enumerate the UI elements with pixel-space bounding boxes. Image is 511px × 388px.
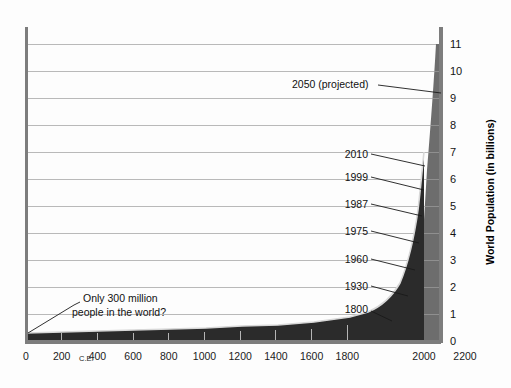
x-tick-label-0: 0 xyxy=(23,350,29,362)
y-tick-label-10: 10 xyxy=(450,65,462,77)
x-tick-label-600: 600 xyxy=(124,350,142,362)
y-tick-label-11: 11 xyxy=(450,38,461,50)
y-tick-label-6: 6 xyxy=(450,173,456,185)
annotation-1800: 1800 xyxy=(345,303,369,315)
x-tick-labels: 0 200 C.E. 400 600 800 1000 1200 1400 16… xyxy=(23,350,477,363)
y-tick-label-7: 7 xyxy=(450,146,456,158)
y-tick-label-3: 3 xyxy=(450,254,456,266)
y-tick-label-4: 4 xyxy=(450,227,456,239)
world-population-chart: 2050 (projected) 2010 1999 1987 1975 196… xyxy=(0,0,511,388)
x-tick-label-1400: 1400 xyxy=(264,350,288,362)
y-axis-title: World Population (in billions) xyxy=(484,119,496,265)
annotation-300-million-line2: people in the world? xyxy=(72,306,166,318)
y-tick-label-1: 1 xyxy=(450,308,456,320)
y-tick-label-5: 5 xyxy=(450,200,456,212)
y-tick-labels: 0 1 2 3 4 5 6 7 8 9 10 11 xyxy=(450,38,462,347)
y-tick-label-8: 8 xyxy=(450,119,456,131)
y-tick-label-9: 9 xyxy=(450,92,456,104)
x-tick-label-2000: 2000 xyxy=(412,350,436,362)
chart-canvas: 2050 (projected) 2010 1999 1987 1975 196… xyxy=(0,0,511,388)
annotation-1999: 1999 xyxy=(345,171,369,183)
annotation-1960: 1960 xyxy=(345,253,369,265)
x-tick-label-800: 800 xyxy=(160,350,178,362)
x-tick-label-400: 400 xyxy=(89,350,107,362)
x-tick-label-200: 200 xyxy=(53,350,71,362)
y-tick-label-2: 2 xyxy=(450,281,456,293)
annotation-2010: 2010 xyxy=(345,148,369,160)
annotation-1975: 1975 xyxy=(345,225,369,237)
x-tick-label-2200: 2200 xyxy=(453,350,477,362)
annotation-300-million-line1: Only 300 million xyxy=(83,292,158,304)
annotation-1987: 1987 xyxy=(345,198,369,210)
x-tick-label-1000: 1000 xyxy=(193,350,217,362)
y-tick-label-0: 0 xyxy=(450,335,456,347)
annotation-1930: 1930 xyxy=(345,280,369,292)
x-tick-label-1600: 1600 xyxy=(300,350,324,362)
x-tick-label-1200: 1200 xyxy=(229,350,253,362)
x-tick-label-1800: 1800 xyxy=(336,350,360,362)
annotation-2050: 2050 (projected) xyxy=(292,78,368,90)
